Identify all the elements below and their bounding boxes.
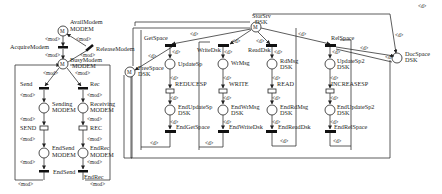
transition-end-write-dsk[interactable] [218, 130, 229, 133]
place-label: AvailModem [70, 18, 103, 25]
arc-label: <mod> [18, 181, 33, 187]
dsk-net: M StorSrv DSK M FreeSpace DSK DocSpace D… [124, 3, 430, 158]
transition-rec-op[interactable] [79, 126, 87, 130]
transition-release-modem[interactable] [85, 44, 94, 52]
arc-label: <d> [395, 32, 404, 38]
transition-end-rel-space[interactable] [325, 130, 336, 133]
arc-to-docspace [253, 14, 396, 53]
arc-label: <mod> [20, 116, 35, 122]
arc-label: <mod> [87, 136, 102, 142]
arc-label: <mod> [87, 159, 102, 165]
transition-rel-space[interactable] [325, 44, 336, 47]
arc-label: <d> [150, 140, 159, 146]
place-type: MODEM [52, 106, 76, 113]
arc-label: <mod> [45, 36, 60, 42]
place-type: DSK [138, 70, 151, 77]
arc-label: <mod> [87, 116, 102, 122]
transition-label: WriteDsk [197, 46, 222, 53]
arc-label: <d> [172, 49, 181, 55]
arc-label: <d> [385, 54, 394, 60]
arc-label: <d> [360, 45, 369, 51]
transition-label: RelSpace [331, 34, 355, 41]
transition-rec[interactable] [78, 87, 88, 90]
place-update-sp2[interactable] [325, 59, 335, 69]
place-end-rd-msg[interactable] [267, 105, 277, 115]
token-label: M [127, 69, 132, 75]
arc-label: <d> [148, 53, 157, 59]
arc-label: <d> [170, 95, 179, 101]
transition-acquire-modem[interactable] [58, 46, 68, 49]
transition-send[interactable] [39, 87, 49, 90]
transition-get-space[interactable] [165, 44, 176, 47]
transition-reducesp[interactable] [166, 89, 174, 93]
place-receiving[interactable] [78, 103, 88, 113]
place-type: DSK [231, 109, 244, 116]
place-doc-space[interactable] [392, 53, 402, 63]
token-label: M [60, 61, 65, 67]
transition-label: REDUCESP [175, 80, 207, 87]
place-sending[interactable] [39, 103, 49, 113]
place-update-sp[interactable] [165, 59, 175, 69]
place-type: DSK [337, 63, 350, 70]
transition-read[interactable] [268, 89, 276, 93]
place-type: MODEM [70, 25, 94, 32]
place-type: DSK [405, 56, 418, 63]
transition-increasesp[interactable] [326, 89, 334, 93]
place-type: MODEM [90, 106, 114, 113]
arc-label: <d> [298, 31, 307, 37]
place-label: EndRec [90, 144, 110, 151]
petri-net-diagram: M AvailModem MODEM AcquireModem <mod> <m… [0, 0, 442, 194]
frame-writedsk [199, 42, 210, 150]
arc-label: <mod> [43, 70, 58, 76]
arc-label: <mod> [20, 159, 35, 165]
arc-label: <d> [280, 138, 289, 144]
transition-send-op[interactable] [40, 126, 48, 130]
transition-label: EndWriteDsk [229, 123, 264, 130]
arc-label: <d> [205, 140, 214, 146]
place-wr-msg[interactable] [218, 59, 228, 69]
token-label: M [60, 28, 65, 34]
arc-label: <d> [330, 95, 339, 101]
transition-label: EndReadDsk [278, 123, 312, 130]
arc-label: <d> [232, 38, 241, 44]
arc-label: <mod> [20, 136, 35, 142]
arc-label: <mod> [75, 70, 90, 76]
transition-label: WRITE [229, 80, 249, 87]
transition-end-get-space[interactable] [165, 130, 176, 133]
place-type: DSK [255, 18, 268, 25]
transition-label: Rec [90, 80, 100, 87]
place-type: MODEM [72, 62, 96, 69]
arc-label: <d> [223, 95, 232, 101]
arc-label: <d> [190, 31, 199, 37]
transition-label: ReleaseModem [96, 45, 135, 52]
arc [261, 28, 330, 44]
transition-label: EndRec [84, 173, 104, 180]
place-type: DSK [337, 109, 350, 116]
transition-label: AcquireModem [10, 43, 49, 50]
place-end-rec[interactable] [78, 148, 88, 158]
modem-net: M AvailModem MODEM AcquireModem <mod> <m… [10, 18, 135, 187]
place-type: MODEM [52, 151, 76, 158]
place-rd-msg[interactable] [267, 59, 277, 69]
place-end-update-sp[interactable] [165, 105, 175, 115]
place-end-wr-msg[interactable] [218, 105, 228, 115]
place-end-update-sp2[interactable] [325, 105, 335, 115]
transition-label: REC [90, 124, 102, 131]
arc-label: <mod> [87, 92, 102, 98]
transition-end-read-dsk[interactable] [266, 130, 277, 133]
place-type: DSK [280, 109, 293, 116]
transition-label: READ [277, 80, 294, 87]
arc-top-frame [135, 22, 250, 26]
transition-label: ReadDsk [248, 46, 272, 53]
arc-label: <d> [333, 138, 342, 144]
transition-label: SEND [20, 124, 37, 131]
arc-label: <d> [418, 3, 427, 9]
place-type: DSK [178, 109, 191, 116]
place-end-send[interactable] [39, 148, 49, 158]
arc-label: <d> [272, 95, 281, 101]
arc-label: <mod> [90, 181, 105, 187]
transition-label: EndSend [53, 168, 76, 175]
transition-label: INCREASESP [331, 80, 369, 87]
arc-label: <d> [332, 49, 341, 55]
transition-write[interactable] [219, 89, 227, 93]
